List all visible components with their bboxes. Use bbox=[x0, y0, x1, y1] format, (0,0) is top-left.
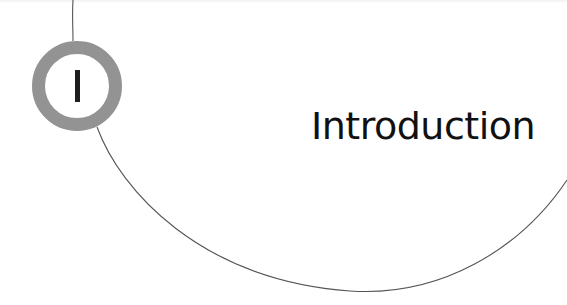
chapter-numeral-glyph: I bbox=[75, 70, 80, 102]
chapter-title: Introduction bbox=[311, 104, 535, 148]
